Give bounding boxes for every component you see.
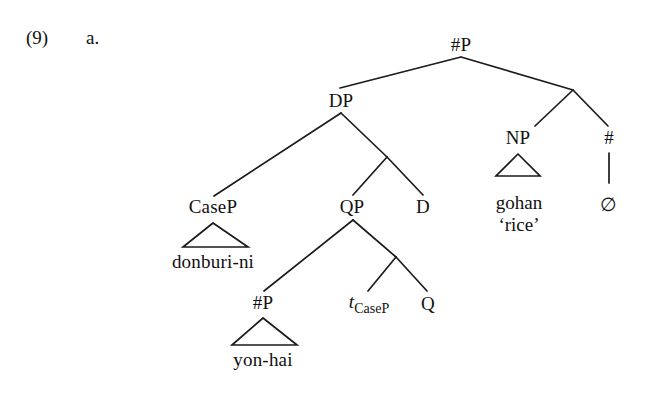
example-letter: a. xyxy=(86,27,99,49)
branch-qpdnode-to-qp xyxy=(353,157,387,195)
terminal-null-morpheme: ∅ xyxy=(600,195,617,216)
syntax-tree-figure: (9) a. #P DP CaseP QP D #P tCaseP Q xyxy=(0,0,653,401)
terminal-donburi-ni: donburi-ni xyxy=(172,252,254,273)
tree-branch-lines xyxy=(0,0,653,401)
terminal-gohan: gohan xyxy=(496,192,542,214)
node-d: D xyxy=(416,197,430,218)
node-qp: QP xyxy=(340,197,365,218)
node-number-head: # xyxy=(604,128,614,149)
node-low-numberp: #P xyxy=(253,293,273,314)
branch-dp-to-casep xyxy=(214,113,341,196)
branch-qp-to-tracenode xyxy=(353,220,396,257)
branch-tracenode-to-q xyxy=(396,257,427,291)
node-casep: CaseP xyxy=(189,197,238,218)
branch-dp-to-qpdnode xyxy=(341,113,387,157)
branch-root-to-numnode xyxy=(461,57,573,90)
branch-qpdnode-to-d xyxy=(387,157,423,195)
node-dp: DP xyxy=(329,91,354,112)
branch-qp-to-lownumberp xyxy=(264,220,353,291)
branch-root-to-dp xyxy=(340,57,461,88)
terminal-yon-hai: yon-hai xyxy=(233,350,292,371)
branch-numnode-to-np xyxy=(535,90,573,126)
terminal-gohan-gloss: ‘rice’ xyxy=(496,214,542,236)
casep-triangle xyxy=(183,223,248,247)
node-q: Q xyxy=(421,294,435,315)
branch-numnode-to-numhead xyxy=(573,90,608,126)
node-trace-casep: tCaseP xyxy=(349,292,390,316)
branch-tracenode-to-trace xyxy=(368,257,396,291)
node-np: NP xyxy=(506,128,531,149)
example-number: (9) xyxy=(26,27,48,49)
np-triangle xyxy=(496,154,540,176)
trace-subscript: CaseP xyxy=(354,300,389,316)
node-root-numberp: #P xyxy=(451,35,471,56)
terminal-gohan-block: gohan ‘rice’ xyxy=(496,192,542,237)
low-numberp-triangle xyxy=(232,318,297,345)
